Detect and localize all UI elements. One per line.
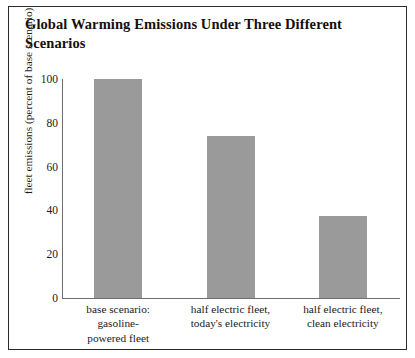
bar-chart: fleet emissions (percent of base scenari… — [9, 7, 408, 351]
figure-frame: Global Warming Emissions Under Three Dif… — [8, 6, 407, 350]
y-axis-tick-label: 100 — [24, 73, 58, 85]
y-axis-tick-labels: 020406080100 — [17, 79, 58, 298]
x-axis-tick-label-line: half electric fleet, — [282, 302, 404, 316]
x-axis-tick-label-line: base scenario: — [57, 302, 179, 316]
bar — [94, 79, 142, 298]
x-axis-line — [62, 298, 400, 299]
x-axis-tick-label-line: powered fleet — [57, 331, 179, 345]
y-axis-tick-label: 60 — [24, 161, 58, 173]
bar — [319, 216, 367, 298]
bar — [207, 136, 255, 298]
y-axis-tick-label: 20 — [24, 248, 58, 260]
x-axis-tick-labels: base scenario:gasoline-powered fleethalf… — [62, 302, 399, 350]
x-axis-tick-label: base scenario:gasoline-powered fleet — [57, 302, 179, 345]
x-axis-tick-label: half electric fleet,today's electricity — [170, 302, 292, 331]
plot-area — [62, 79, 399, 298]
x-axis-tick-label: half electric fleet,clean electricity — [282, 302, 404, 331]
x-axis-tick-label-line: half electric fleet, — [170, 302, 292, 316]
y-axis-tick-label: 40 — [24, 204, 58, 216]
x-axis-tick-label-line: today's electricity — [170, 316, 292, 330]
x-axis-tick-label-line: gasoline- — [57, 316, 179, 330]
x-axis-tick-label-line: clean electricity — [282, 316, 404, 330]
y-axis-tick-label: 0 — [24, 292, 58, 304]
y-axis-tick-label: 80 — [24, 117, 58, 129]
